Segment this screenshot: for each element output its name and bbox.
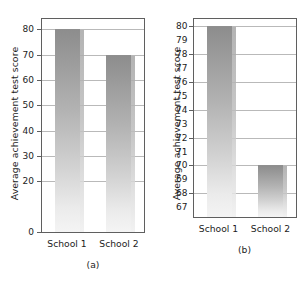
plot-area-b — [193, 18, 297, 218]
panel-caption-a: (a) — [41, 259, 145, 270]
x-label-school-2: School 2 — [245, 223, 297, 234]
bar-school-2 — [106, 55, 131, 233]
y-axis-title-a: Average achievement test score — [9, 14, 20, 234]
bar-school-1 — [207, 26, 232, 217]
bar-school-1 — [55, 29, 80, 232]
chart-panel-a: Average achievement test score 020304050… — [0, 0, 154, 284]
bar-school-2 — [258, 165, 283, 217]
x-label-school-1: School 1 — [41, 238, 93, 249]
chart-panel-b: Average achievement test score 676869707… — [154, 0, 308, 284]
y-axis-title-b: Average achievement test score — [170, 14, 181, 234]
figure-two-bar-charts: Average achievement test score 020304050… — [0, 0, 307, 284]
x-axis-labels-a: School 1 School 2 — [41, 238, 145, 249]
plot-area-a — [41, 18, 145, 233]
x-axis-labels-b: School 1 School 2 — [193, 223, 297, 234]
panel-caption-b: (b) — [193, 244, 297, 255]
x-label-school-2: School 2 — [93, 238, 145, 249]
x-label-school-1: School 1 — [193, 223, 245, 234]
